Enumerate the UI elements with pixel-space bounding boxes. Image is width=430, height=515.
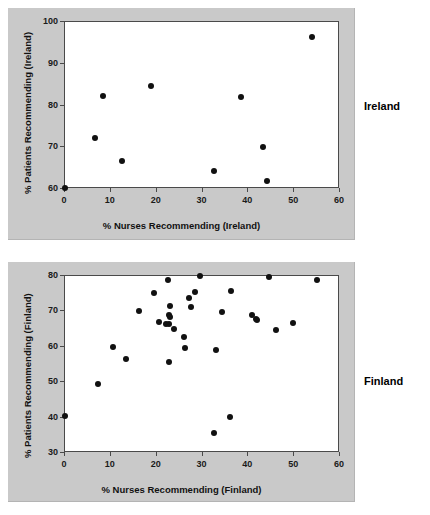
x-tick-label-ireland: 20	[151, 196, 161, 205]
data-point-ireland	[238, 94, 244, 100]
data-point-ireland	[62, 185, 68, 191]
data-point-finland	[110, 344, 116, 350]
x-tick-label-finland: 40	[242, 460, 252, 469]
data-point-finland	[192, 289, 198, 295]
x-tick-label-finland: 20	[151, 460, 161, 469]
data-point-finland	[182, 345, 188, 351]
x-tick-label-finland: 30	[196, 460, 206, 469]
data-point-finland	[266, 274, 272, 280]
y-tick-finland	[60, 346, 64, 347]
y-tick-label-ireland: 90	[34, 58, 58, 67]
x-tick-finland	[156, 452, 157, 456]
x-tick-label-ireland: 40	[242, 196, 252, 205]
x-tick-finland	[339, 452, 340, 456]
y-tick-label-finland: 60	[34, 341, 58, 350]
y-tick-label-finland: 70	[34, 306, 58, 315]
y-axis-title-finland: % Patients Recommending (Finland)	[22, 293, 33, 458]
group-label-finland: Finland	[364, 375, 403, 387]
data-point-finland	[228, 288, 234, 294]
y-tick-label-finland: 30	[34, 448, 58, 457]
x-tick-finland	[247, 452, 248, 456]
data-point-finland	[197, 273, 203, 279]
plot-area-ireland	[64, 21, 339, 188]
y-tick-ireland	[60, 21, 64, 22]
x-tick-ireland	[293, 188, 294, 192]
chart-panel-finland: % Nurses Recommending (Finland) % Patien…	[8, 262, 355, 502]
x-tick-label-finland: 60	[334, 460, 344, 469]
y-tick-ireland	[60, 63, 64, 64]
data-point-ireland	[100, 93, 106, 99]
x-tick-label-ireland: 30	[196, 196, 206, 205]
y-axis-title-ireland: % Patients Recommending (Ireland)	[22, 32, 33, 194]
y-tick-finland	[60, 381, 64, 382]
x-tick-finland	[64, 452, 65, 456]
data-point-finland	[186, 295, 192, 301]
data-point-finland	[314, 277, 320, 283]
data-point-ireland	[309, 34, 315, 40]
y-tick-label-ireland: 60	[34, 184, 58, 193]
x-axis-title-finland: % Nurses Recommending (Finland)	[8, 484, 355, 495]
x-tick-label-ireland: 10	[105, 196, 115, 205]
x-tick-ireland	[202, 188, 203, 192]
x-tick-finland	[293, 452, 294, 456]
y-tick-label-ireland: 100	[34, 17, 58, 26]
group-label-ireland: Ireland	[364, 100, 400, 112]
x-tick-label-finland: 0	[61, 460, 66, 469]
x-tick-label-finland: 50	[288, 460, 298, 469]
data-point-finland	[213, 347, 219, 353]
y-tick-ireland	[60, 105, 64, 106]
y-tick-label-ireland: 80	[34, 100, 58, 109]
y-tick-label-ireland: 70	[34, 142, 58, 151]
plot-area-finland	[64, 275, 339, 452]
data-point-ireland	[264, 178, 270, 184]
x-tick-ireland	[247, 188, 248, 192]
y-tick-ireland	[60, 146, 64, 147]
x-tick-label-finland: 10	[105, 460, 115, 469]
data-point-ireland	[119, 158, 125, 164]
y-tick-label-finland: 80	[34, 271, 58, 280]
y-tick-finland	[60, 452, 64, 453]
data-point-finland	[123, 356, 129, 362]
y-tick-finland	[60, 310, 64, 311]
data-point-finland	[167, 303, 173, 309]
data-point-ireland	[148, 83, 154, 89]
x-tick-ireland	[339, 188, 340, 192]
data-point-finland	[219, 309, 225, 315]
data-point-finland	[273, 327, 279, 333]
x-tick-finland	[202, 452, 203, 456]
data-point-finland	[188, 304, 194, 310]
x-tick-label-ireland: 50	[288, 196, 298, 205]
x-tick-finland	[110, 452, 111, 456]
y-tick-finland	[60, 275, 64, 276]
x-tick-ireland	[156, 188, 157, 192]
data-point-finland	[165, 277, 171, 283]
data-point-finland	[181, 334, 187, 340]
data-point-finland	[62, 413, 68, 419]
y-tick-label-finland: 40	[34, 412, 58, 421]
x-tick-label-ireland: 60	[334, 196, 344, 205]
data-point-finland	[171, 326, 177, 332]
chart-panel-ireland: % Nurses Recommending (Ireland) % Patien…	[8, 8, 355, 240]
x-axis-title-ireland: % Nurses Recommending (Ireland)	[8, 220, 355, 231]
y-tick-label-finland: 50	[34, 377, 58, 386]
x-tick-label-ireland: 0	[61, 196, 66, 205]
x-tick-ireland	[110, 188, 111, 192]
